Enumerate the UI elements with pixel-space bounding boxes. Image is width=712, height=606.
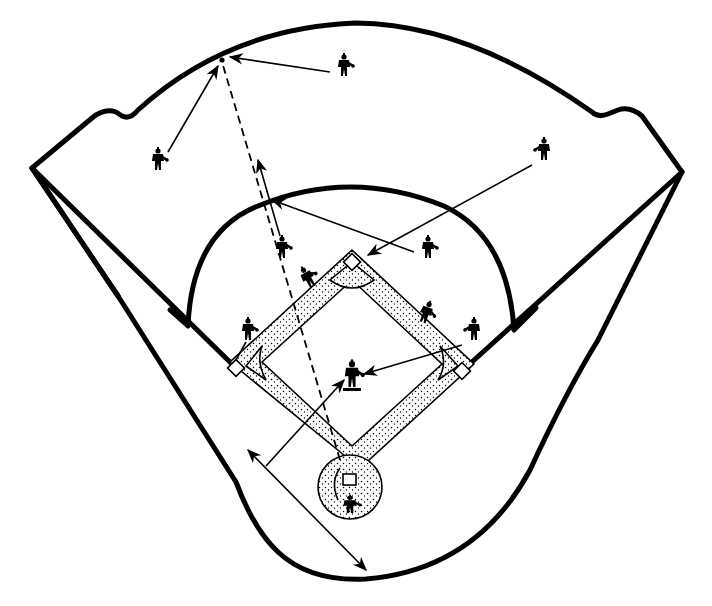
ball-landing-point: [219, 57, 224, 62]
home-plate: [343, 474, 356, 485]
player-first-baseman: [463, 317, 480, 340]
left-foul-line: [32, 168, 236, 368]
player-right-fielder: [533, 137, 550, 160]
player-left-fielder: [152, 147, 169, 170]
arrow-right-fielder-throw: [368, 165, 532, 255]
player-second-baseman: [422, 235, 439, 258]
mound-note: [343, 388, 361, 391]
baseball-diagram: Baseball field defensive play diagram: [0, 0, 712, 606]
player-pitcher: [345, 359, 365, 387]
left-line-extension: [32, 168, 118, 296]
home-plate-circle: [318, 455, 382, 519]
field-svg: [0, 0, 712, 606]
arrow-second-baseman: [272, 200, 414, 252]
right-foul-line: [462, 172, 682, 371]
player-third-baseman: [242, 317, 259, 340]
arrow-center-fielder-to-ball: [230, 57, 330, 72]
player-center-fielder: [338, 53, 355, 76]
